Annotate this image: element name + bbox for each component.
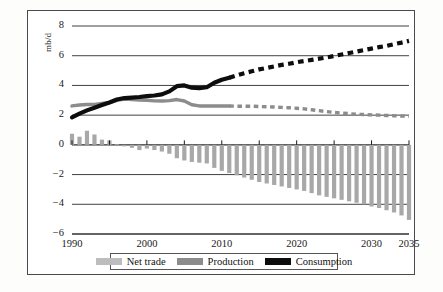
legend-item: Net trade [96, 256, 166, 267]
y-tick-label: −2 [38, 168, 64, 179]
net-trade-bar [115, 144, 119, 145]
chart-figure: Net tradeProductionConsumption mb/d86420… [0, 0, 443, 292]
net-trade-bar [310, 145, 314, 193]
net-trade-bar [227, 145, 231, 173]
legend-label: Production [208, 256, 254, 267]
net-trade-bar [340, 145, 344, 200]
net-trade-bar [242, 145, 246, 178]
x-tick-label: 2010 [200, 238, 244, 249]
net-trade-bar [175, 145, 179, 158]
x-tick-marks [72, 140, 409, 145]
chart-legend: Net tradeProductionConsumption [110, 253, 338, 270]
legend-label: Consumption [296, 256, 353, 267]
net-trade-bar [362, 145, 366, 204]
net-trade-bar [369, 145, 373, 207]
legend-item: Consumption [265, 256, 353, 267]
net-trade-bar [152, 145, 156, 150]
net-trade-bar [399, 145, 403, 216]
net-trade-bar [265, 145, 269, 184]
net-trade-bar [325, 145, 329, 197]
production-line [72, 99, 409, 116]
net-trade-bar [145, 145, 149, 149]
net-trade-bar [167, 145, 171, 154]
net-trade-bar [287, 145, 291, 188]
net-trade-bar [130, 145, 134, 148]
net-trade-bar [354, 145, 358, 203]
x-tick-label: 1990 [50, 238, 94, 249]
net-trade-bar [220, 145, 224, 171]
net-trade-bar [392, 145, 396, 213]
net-trade-bar [347, 145, 351, 201]
net-trade-bar [122, 145, 126, 146]
net-trade-bar [235, 145, 239, 175]
legend-label: Net trade [127, 256, 166, 267]
y-tick-label: −4 [38, 197, 64, 208]
net-trade-bar [407, 145, 411, 220]
net-trade-bar [377, 145, 381, 208]
net-trade-bar [272, 145, 276, 185]
net-trade-bar [212, 145, 216, 168]
net-trade-bar [197, 145, 201, 163]
net-trade-bar [280, 145, 284, 187]
net-trade-bars [70, 131, 411, 220]
net-trade-bar [332, 145, 336, 198]
net-trade-bar [384, 145, 388, 210]
net-trade-bar [250, 145, 254, 180]
y-tick-label: −6 [38, 227, 64, 238]
net-trade-bar [182, 145, 186, 161]
y-tick-label: 6 [38, 49, 64, 60]
net-trade-bar [302, 145, 306, 191]
net-trade-bar [92, 134, 96, 144]
net-trade-bar [295, 145, 299, 190]
y-tick-label: 4 [38, 78, 64, 89]
net-trade-bar [257, 145, 261, 182]
y-tick-label: 8 [38, 19, 64, 30]
net-trade-bar [317, 145, 321, 196]
legend-item: Production [177, 256, 254, 267]
net-trade-bar [160, 145, 164, 152]
net-trade-bar [77, 137, 81, 145]
x-tick-label: 2000 [125, 238, 169, 249]
y-tick-label: 0 [38, 138, 64, 149]
net-trade-bar [100, 140, 104, 145]
net-trade-swatch [96, 258, 122, 265]
net-trade-bar [205, 145, 209, 164]
consumption-swatch [265, 258, 291, 265]
x-tick-label: 2035 [387, 238, 431, 249]
net-trade-bar [137, 145, 141, 150]
net-trade-bar [85, 131, 89, 145]
x-tick-label: 2020 [275, 238, 319, 249]
net-trade-bar [190, 145, 194, 162]
production-swatch [177, 258, 203, 265]
y-tick-label: 2 [38, 108, 64, 119]
